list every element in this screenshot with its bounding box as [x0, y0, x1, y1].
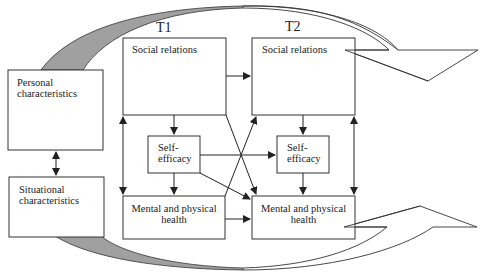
- diagram-graphics: [0, 0, 488, 274]
- t1-self-efficacy-line2: efficacy: [158, 153, 192, 164]
- t2-self-efficacy-line2: efficacy: [287, 153, 321, 164]
- t1-health-line2: health: [123, 214, 225, 225]
- situational-characteristics-label: Situational characteristics: [19, 184, 103, 206]
- diagram-canvas: T1 T2 Personal characteristics Situation…: [0, 0, 488, 274]
- t1-label: T1: [156, 20, 172, 36]
- personal-characteristics-label: Personal characteristics: [17, 77, 101, 99]
- t2-social-relations-label: Social relations: [262, 44, 327, 55]
- t2-health-line1: Mental and physical: [252, 203, 355, 214]
- t1-health-line1: Mental and physical: [123, 203, 225, 214]
- t2-self-efficacy-line1: Self-: [287, 142, 307, 153]
- t2-health-line2: health: [252, 214, 355, 225]
- t2-label: T2: [285, 19, 301, 35]
- t1-self-efficacy-line1: Self-: [158, 142, 178, 153]
- t1-social-relations-label: Social relations: [132, 44, 197, 55]
- arrow-t1-health-to-t2-social: [225, 117, 256, 196]
